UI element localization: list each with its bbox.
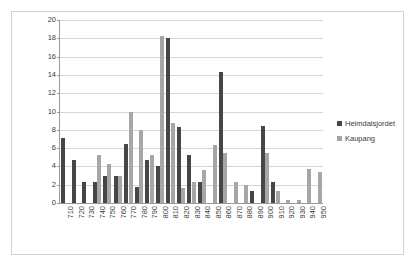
bar xyxy=(72,160,76,203)
bar xyxy=(150,155,154,203)
bar-group xyxy=(228,20,239,203)
x-tick-label: 940 xyxy=(309,206,317,219)
bar xyxy=(139,130,143,203)
bar-group xyxy=(239,20,250,203)
bar xyxy=(135,187,139,203)
plot-area xyxy=(59,20,323,204)
y-tick-label: 14 xyxy=(48,71,56,79)
y-tick-label: 2 xyxy=(52,181,56,189)
x-tick-label: 810 xyxy=(172,206,180,219)
x-tick-label: 920 xyxy=(288,206,296,219)
legend-item: Kaupang xyxy=(337,135,399,143)
bar-group xyxy=(92,20,103,203)
chart-frame: 02468101214161820 7107207307407507607707… xyxy=(11,11,404,255)
chart-legend: HeimdalsjordetKaupang xyxy=(337,120,399,149)
bar-group xyxy=(281,20,292,203)
x-tick-label: 890 xyxy=(257,206,265,219)
bar-group xyxy=(123,20,134,203)
bar xyxy=(307,169,311,203)
y-tick-label: 4 xyxy=(52,163,56,171)
bar xyxy=(250,191,254,203)
bar xyxy=(297,200,301,203)
bar-group xyxy=(134,20,145,203)
x-tick-label: 830 xyxy=(194,206,202,219)
y-tick-label: 12 xyxy=(48,89,56,97)
bar-group xyxy=(312,20,323,203)
bar xyxy=(223,153,227,203)
x-tick-label: 780 xyxy=(141,206,149,219)
y-tick-label: 6 xyxy=(52,144,56,152)
bar-group xyxy=(144,20,155,203)
bar xyxy=(265,153,269,203)
x-axis-tick-labels: 7107207307407507607707807908008108208308… xyxy=(59,206,322,230)
y-tick-label: 20 xyxy=(48,16,56,24)
legend-swatch-icon xyxy=(337,136,342,141)
bar-group xyxy=(207,20,218,203)
bar xyxy=(177,127,181,203)
bar-group xyxy=(155,20,166,203)
x-tick-label: 770 xyxy=(130,206,138,219)
bar xyxy=(114,176,118,203)
bar xyxy=(107,164,111,203)
bar xyxy=(318,172,322,203)
legend-label: Kaupang xyxy=(345,135,375,143)
legend-swatch-icon xyxy=(337,121,342,126)
y-tick-label: 16 xyxy=(48,53,56,61)
bar xyxy=(271,182,275,203)
x-tick-label: 740 xyxy=(99,206,107,219)
bar xyxy=(244,185,248,203)
bar-group xyxy=(291,20,302,203)
bar xyxy=(198,182,202,203)
x-tick-label: 800 xyxy=(162,206,170,219)
x-tick-label: 750 xyxy=(109,206,117,219)
bar xyxy=(213,145,217,203)
bar-group xyxy=(186,20,197,203)
legend-item: Heimdalsjordet xyxy=(337,120,399,128)
bar xyxy=(156,166,160,203)
x-tick-label: 760 xyxy=(120,206,128,219)
x-tick-label: 900 xyxy=(267,206,275,219)
bar xyxy=(171,123,175,203)
bars-layer xyxy=(60,20,323,203)
bar-group xyxy=(218,20,229,203)
x-tick-label: 790 xyxy=(151,206,159,219)
x-tick-label: 930 xyxy=(299,206,307,219)
bar xyxy=(160,36,164,203)
x-tick-label: 820 xyxy=(183,206,191,219)
bar xyxy=(118,176,122,203)
x-tick-label: 840 xyxy=(204,206,212,219)
y-axis-tick-labels: 02468101214161820 xyxy=(36,20,56,203)
y-tick-label: 8 xyxy=(52,126,56,134)
bar xyxy=(234,182,238,203)
bar xyxy=(82,182,86,203)
y-tick-label: 10 xyxy=(48,108,56,116)
bar-group xyxy=(113,20,124,203)
bar xyxy=(145,160,149,203)
bar xyxy=(129,112,133,204)
x-tick-label: 710 xyxy=(67,206,75,219)
plot-region: 02468101214161820 7107207307407507607707… xyxy=(36,20,322,227)
bar-group xyxy=(60,20,71,203)
x-tick-label: 720 xyxy=(78,206,86,219)
bar-group xyxy=(81,20,92,203)
bar-group xyxy=(197,20,208,203)
bar xyxy=(187,155,191,203)
x-tick-label: 850 xyxy=(215,206,223,219)
bar xyxy=(192,182,196,203)
bar-group xyxy=(102,20,113,203)
bar xyxy=(103,176,107,203)
bar xyxy=(181,188,185,203)
x-tick-label: 950 xyxy=(320,206,328,219)
x-tick-label: 880 xyxy=(246,206,254,219)
bar xyxy=(61,138,65,203)
bar xyxy=(286,200,290,203)
bar-group xyxy=(260,20,271,203)
bar xyxy=(97,155,101,203)
bar-group xyxy=(270,20,281,203)
x-tick-label: 730 xyxy=(88,206,96,219)
y-tick-mark xyxy=(57,203,60,204)
bar xyxy=(166,38,170,203)
bar-group xyxy=(71,20,82,203)
bar xyxy=(202,170,206,203)
bar xyxy=(124,144,128,203)
